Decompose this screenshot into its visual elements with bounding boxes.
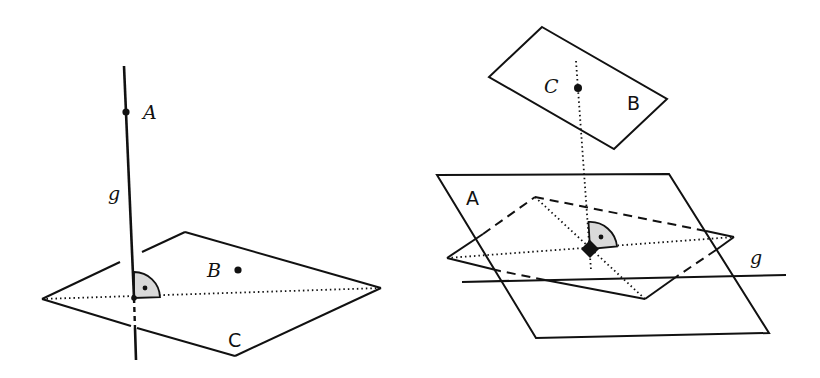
label-plane-c: C — [228, 329, 241, 351]
foot-point — [131, 295, 137, 301]
geometry-diagram: A g B C B C A — [0, 0, 820, 378]
label-point-b: B — [206, 259, 221, 281]
plane-c — [42, 232, 381, 356]
label-point-a: A — [141, 101, 157, 123]
plane-c-diagonal — [42, 288, 381, 299]
line-g — [124, 66, 134, 298]
line-g-hidden — [134, 298, 135, 328]
left-figure: A g B C — [42, 66, 381, 360]
plane-a — [437, 174, 769, 338]
point-c — [574, 84, 582, 92]
right-angle-marker — [134, 272, 160, 298]
label-line-g-right: g — [750, 246, 762, 268]
point-b — [234, 266, 241, 273]
right-angle-dot-right — [599, 235, 604, 240]
right-angle-dot — [143, 286, 148, 291]
label-plane-a: A — [466, 187, 479, 209]
line-g-below — [135, 328, 136, 360]
point-a — [122, 108, 129, 115]
label-line-g: g — [108, 182, 120, 204]
label-point-c: C — [544, 75, 559, 97]
right-figure: B C A g — [437, 27, 786, 338]
label-plane-b: B — [627, 92, 640, 114]
